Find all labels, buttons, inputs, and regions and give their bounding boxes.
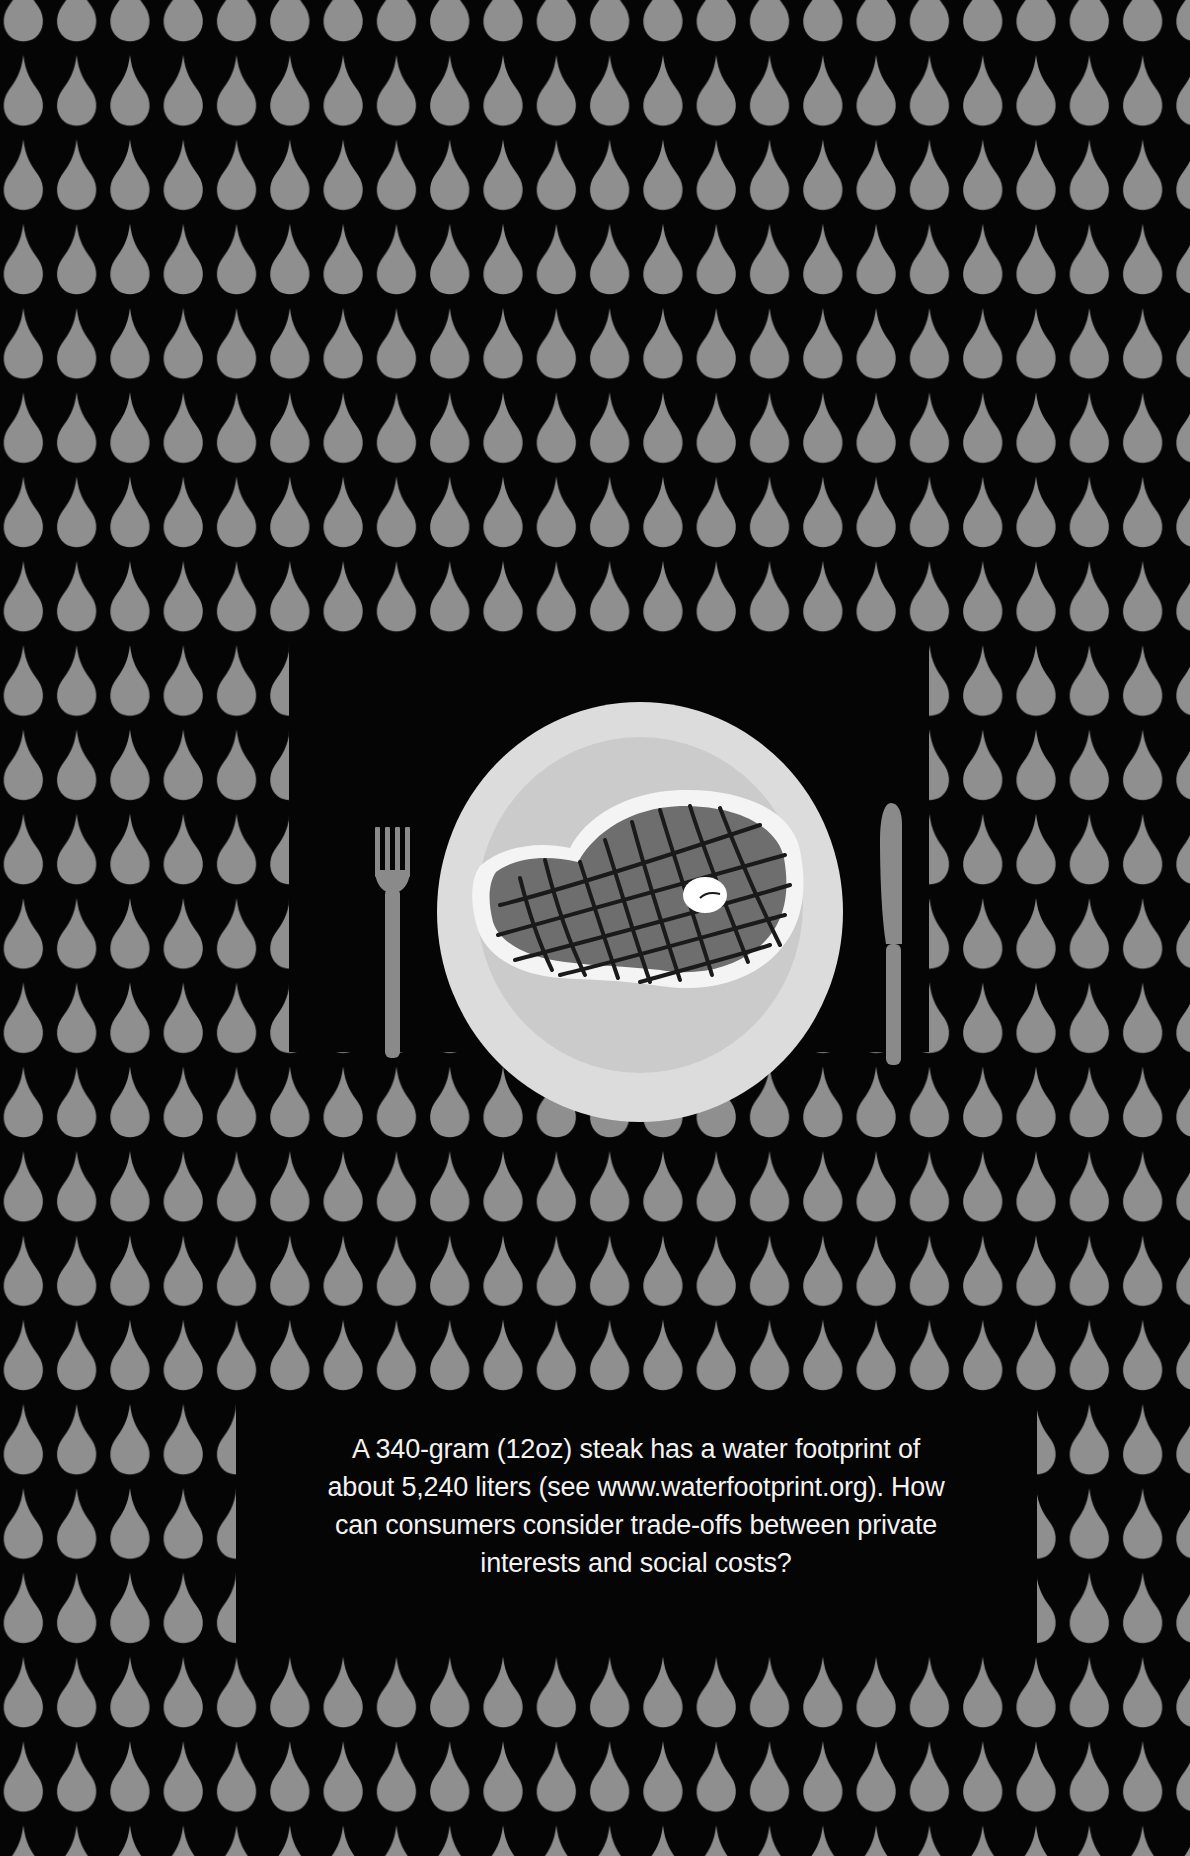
caption-line-3: can consumers consider trade-offs betwee…: [236, 1506, 1036, 1544]
caption-line-2: about 5,240 liters (see www.waterfootpri…: [236, 1468, 1036, 1506]
caption-line-4: interests and social costs?: [236, 1544, 1036, 1582]
caption-line-1: A 340-gram (12oz) steak has a water foot…: [236, 1430, 1036, 1468]
caption-text: A 340-gram (12oz) steak has a water foot…: [236, 1430, 1036, 1582]
water-footprint-illustration: A 340-gram (12oz) steak has a water foot…: [0, 0, 1190, 1856]
